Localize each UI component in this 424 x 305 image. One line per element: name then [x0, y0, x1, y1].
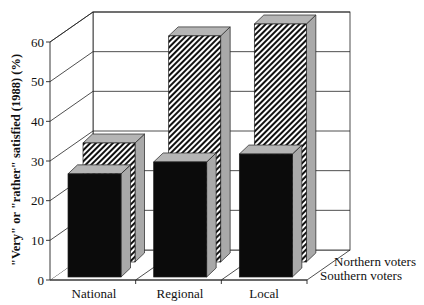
- bar-southern-local-side: [292, 145, 302, 277]
- bar-northern-local-top: [254, 15, 316, 24]
- legend-northern-voters: Northern voters: [334, 254, 416, 269]
- bar-northern-regional-side: [221, 27, 231, 262]
- bar-southern-regional-top: [154, 153, 217, 162]
- bar-southern-regional-side: [207, 153, 217, 277]
- bar-southern-national: [68, 165, 131, 277]
- y-axis-title: "Very" or "rather" satisfied (1988) (%): [9, 54, 23, 266]
- bar-southern-local-front: [239, 154, 292, 277]
- bar-southern-national-side: [121, 165, 131, 277]
- y-tick-label-0: 0: [38, 273, 45, 288]
- bar-chart: 0102030405060 "Very" or "rather" satisfi…: [0, 0, 424, 305]
- bar-southern-regional-front: [154, 162, 207, 277]
- bar-southern-national-top: [68, 165, 131, 174]
- bar-southern-local-top: [239, 145, 302, 154]
- category-label-local: Local: [249, 286, 279, 301]
- y-tick-label-20: 20: [31, 193, 44, 208]
- y-tick-label-50: 50: [31, 74, 44, 89]
- category-label-national: National: [72, 286, 117, 301]
- y-tick-label-60: 60: [31, 35, 44, 50]
- bar-northern-national-top: [83, 134, 145, 143]
- bar-southern-local: [239, 145, 302, 277]
- y-tick-label-10: 10: [31, 233, 44, 248]
- bar-southern-national-front: [68, 174, 121, 277]
- bar-northern-local-side: [306, 15, 316, 262]
- category-label-regional: Regional: [157, 286, 204, 301]
- y-tick-label-40: 40: [31, 114, 44, 129]
- legend-southern-voters: Southern voters: [320, 268, 402, 283]
- bar-northern-regional-top: [169, 27, 231, 36]
- bar-southern-regional: [154, 153, 217, 277]
- y-tick-label-30: 30: [31, 154, 44, 169]
- bar-northern-national-side: [135, 134, 145, 262]
- southern-bars: [68, 145, 302, 277]
